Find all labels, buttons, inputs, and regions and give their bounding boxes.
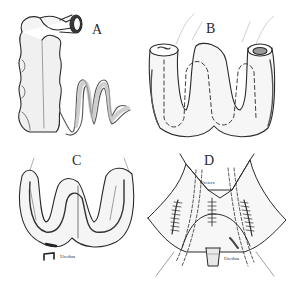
panel-d: D Ureters Urethra	[146, 142, 292, 284]
panel-label-a: A	[92, 23, 102, 37]
panel-c: C Urethra	[0, 142, 146, 284]
panel-label-d: D	[204, 154, 214, 168]
urethra-label-d: Urethra	[224, 256, 239, 261]
urethra-label-c: Urethra	[60, 254, 75, 259]
bowel-segment-illustration	[0, 0, 146, 142]
panel-label-b: B	[206, 22, 215, 36]
panel-a: A	[0, 0, 146, 142]
panel-label-c: C	[72, 154, 81, 168]
panel-b: B	[146, 0, 292, 142]
neobladder-anastomosis-illustration	[146, 142, 292, 284]
w-fold-illustration	[146, 0, 292, 142]
ureters-label: Ureters	[200, 180, 215, 185]
